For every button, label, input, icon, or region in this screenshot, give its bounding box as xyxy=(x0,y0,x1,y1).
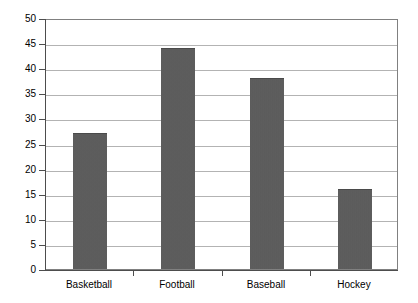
bar xyxy=(161,48,195,269)
y-axis-tick-label: 45 xyxy=(2,39,36,49)
y-axis-tick-label: 30 xyxy=(2,114,36,124)
y-axis-tick-label: 50 xyxy=(2,14,36,24)
x-axis-category-label: Football xyxy=(133,279,221,290)
gridline xyxy=(46,120,397,121)
plot-area xyxy=(45,19,398,270)
x-axis-category-label: Baseball xyxy=(222,279,310,290)
bar xyxy=(250,78,284,269)
bar xyxy=(73,133,107,269)
y-axis-tick-label: 15 xyxy=(2,190,36,200)
bar-chart: 05101520253035404550 BasketballFootballB… xyxy=(0,0,418,303)
y-axis-tick xyxy=(39,270,45,271)
x-axis-tick xyxy=(310,271,311,276)
y-axis-tick xyxy=(39,94,45,95)
bar xyxy=(338,189,372,269)
y-axis-tick xyxy=(39,19,45,20)
y-axis-tick xyxy=(39,145,45,146)
y-axis-tick-label: 20 xyxy=(2,165,36,175)
y-axis-tick-label: 5 xyxy=(2,240,36,250)
y-axis-line xyxy=(45,19,46,271)
x-axis-tick xyxy=(222,271,223,276)
gridline xyxy=(46,95,397,96)
y-axis-tick xyxy=(39,44,45,45)
y-axis-tick-label: 0 xyxy=(2,265,36,275)
y-axis-tick xyxy=(39,170,45,171)
y-axis-tick xyxy=(39,195,45,196)
gridline xyxy=(46,45,397,46)
y-axis-tick xyxy=(39,69,45,70)
x-axis-category-label: Basketball xyxy=(45,279,133,290)
x-axis-tick xyxy=(133,271,134,276)
y-axis-tick xyxy=(39,245,45,246)
y-axis-tick-label: 35 xyxy=(2,89,36,99)
gridline xyxy=(46,70,397,71)
y-axis-tick-label: 40 xyxy=(2,64,36,74)
y-axis-tick xyxy=(39,220,45,221)
y-axis-tick-label: 25 xyxy=(2,140,36,150)
x-axis-category-label: Hockey xyxy=(310,279,398,290)
y-axis-tick xyxy=(39,119,45,120)
y-axis-tick-label: 10 xyxy=(2,215,36,225)
y-axis-labels: 05101520253035404550 xyxy=(0,0,36,303)
